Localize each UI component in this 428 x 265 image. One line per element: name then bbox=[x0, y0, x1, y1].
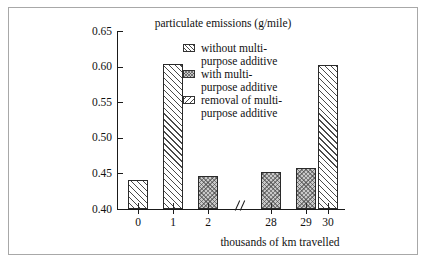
x-axis-tick bbox=[271, 210, 272, 214]
chart-title: particulate emissions (g/mile) bbox=[108, 17, 338, 29]
y-axis-tick bbox=[118, 102, 123, 103]
legend-item-removal-additive: removal of multi- purpose additive bbox=[183, 94, 333, 119]
x-axis-label-30: 30 bbox=[315, 216, 341, 228]
legend-label-line1: without multi- bbox=[183, 42, 333, 55]
legend-swatch-hatch-back-icon bbox=[183, 96, 195, 104]
x-axis-label-28: 28 bbox=[258, 216, 284, 228]
legend-item-without-additive: without multi- purpose additive bbox=[183, 42, 333, 67]
y-axis-label-050: 0.50 bbox=[78, 132, 112, 144]
bar-center-stub bbox=[328, 203, 329, 209]
x-axis-tick bbox=[306, 210, 307, 214]
legend-label-line1: with multi- bbox=[183, 68, 333, 81]
x-axis-line bbox=[117, 209, 345, 210]
y-axis-label-045: 0.45 bbox=[78, 168, 112, 180]
axis-break-marker bbox=[233, 200, 247, 212]
legend-swatch-checker-icon bbox=[183, 70, 195, 78]
legend-label-line2: purpose additive bbox=[183, 81, 333, 94]
chart-legend: without multi- purpose additive with mul… bbox=[183, 42, 333, 121]
x-axis-label-0: 0 bbox=[125, 216, 151, 228]
bar-center-stub bbox=[208, 203, 209, 209]
legend-label-line2: purpose additive bbox=[183, 107, 333, 120]
y-axis-tick bbox=[118, 67, 123, 68]
bar-center-stub bbox=[138, 203, 139, 209]
y-axis-label-065: 0.65 bbox=[78, 26, 112, 38]
x-axis-tick bbox=[208, 210, 209, 214]
legend-item-with-additive: with multi- purpose additive bbox=[183, 68, 333, 93]
x-axis-tick bbox=[173, 210, 174, 214]
y-axis-line bbox=[117, 31, 118, 210]
y-axis-tick bbox=[118, 209, 123, 210]
bar-center-stub bbox=[306, 203, 307, 209]
bar-chart: particulate emissions (g/mile) 0.65 0.60… bbox=[0, 0, 428, 265]
x-axis-label-2: 2 bbox=[195, 216, 221, 228]
y-axis-label-040: 0.40 bbox=[78, 204, 112, 216]
x-axis-title: thousands of km travelled bbox=[180, 236, 380, 248]
legend-swatch-hatch-icon bbox=[183, 44, 195, 52]
bar-center-stub bbox=[173, 203, 174, 209]
legend-label-line1: removal of multi- bbox=[183, 94, 333, 107]
y-axis-tick bbox=[118, 31, 123, 32]
x-axis-label-1: 1 bbox=[160, 216, 186, 228]
y-axis-label-060: 0.60 bbox=[78, 61, 112, 73]
bar-center-stub bbox=[271, 203, 272, 209]
legend-label-line2: purpose additive bbox=[183, 55, 333, 68]
x-axis-tick bbox=[138, 210, 139, 214]
y-axis-tick bbox=[118, 138, 123, 139]
y-axis-label-055: 0.55 bbox=[78, 97, 112, 109]
y-axis-tick bbox=[118, 173, 123, 174]
x-axis-tick bbox=[328, 210, 329, 214]
bar-1 bbox=[163, 64, 183, 209]
